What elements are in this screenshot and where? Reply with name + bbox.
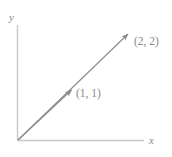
vector-2-2-arrow bbox=[18, 34, 128, 140]
vector-diagram-figure: y x (1, 1) (2, 2) bbox=[0, 0, 172, 157]
point-label-2-2: (2, 2) bbox=[134, 36, 159, 48]
x-axis-label: x bbox=[149, 135, 154, 146]
y-axis-label: y bbox=[9, 12, 14, 23]
point-label-1-1: (1, 1) bbox=[76, 88, 101, 100]
plot-canvas bbox=[0, 0, 172, 157]
